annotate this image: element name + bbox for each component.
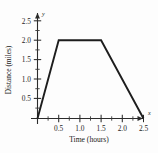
y-axis-arrow-icon — [35, 13, 40, 19]
distance-time-chart-figure: 0.5 1.0 1.5 2.0 2.5 0.5 1.0 1.5 2.0 2.5 … — [0, 0, 158, 153]
x-tick-label-3: 2.0 — [118, 124, 128, 133]
x-tick-label-1: 1.0 — [75, 124, 85, 133]
chart-canvas: 0.5 1.0 1.5 2.0 2.5 0.5 1.0 1.5 2.0 2.5 … — [0, 0, 158, 153]
x-tick-label-0: 0.5 — [54, 124, 64, 133]
axes-group — [31, 13, 143, 124]
distance-time-data-line — [38, 40, 144, 118]
y-axis-tick-labels: 0.5 1.0 1.5 2.0 2.5 — [22, 17, 32, 104]
y-tick-label-4: 2.5 — [22, 17, 32, 26]
x-axis-tick-labels: 0.5 1.0 1.5 2.0 2.5 — [54, 124, 148, 133]
y-tick-label-2: 1.5 — [22, 55, 32, 64]
y-axis-title: Distance (miles) — [4, 45, 13, 94]
x-tick-label-4: 2.5 — [139, 124, 149, 133]
y-tick-label-3: 2.0 — [22, 36, 32, 45]
x-axis-title: Time (hours) — [69, 135, 109, 144]
x-tick-label-2: 1.5 — [96, 124, 106, 133]
y-tick-label-0: 0.5 — [22, 94, 32, 103]
y-tick-label-1: 1.0 — [22, 75, 32, 84]
x-axis-variable-label: x — [147, 109, 151, 116]
y-axis-variable-label: y — [41, 10, 45, 17]
